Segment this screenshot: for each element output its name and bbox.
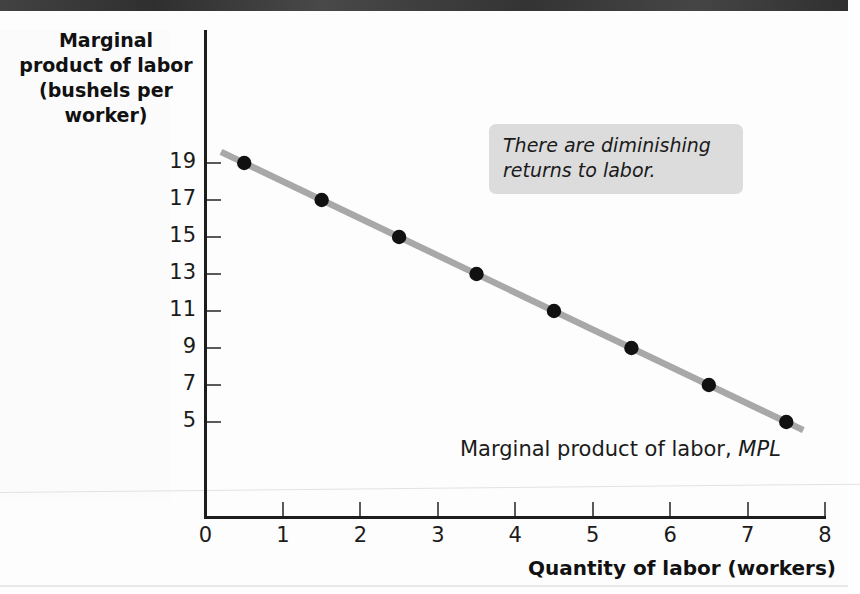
data-point-5.5-9 [624,341,638,355]
x-tick-6 [669,502,671,516]
y-axis-title-line-4: worker) [18,103,194,128]
y-axis-title: Marginal product of labor (bushels per w… [18,28,194,128]
data-point-7.5-5 [779,415,793,429]
x-axis-line [204,516,826,519]
y-tick-11 [207,310,221,312]
x-tick-label-7: 7 [728,523,768,547]
page-top-dark-band [0,0,848,11]
y-tick-label-11: 11 [136,297,196,321]
y-tick-label-13: 13 [136,260,196,284]
x-tick-7 [747,502,749,516]
y-axis-title-line-3: (bushels per [18,78,194,103]
series-label-text: Marginal product of labor, [460,437,738,461]
y-tick-9 [207,347,221,349]
x-tick-label-1: 1 [263,523,303,547]
annotation-line-1: There are diminishing [503,133,729,158]
page-top-dark-band-texture [0,0,848,11]
x-tick-4 [514,502,516,516]
data-point-2.5-15 [392,230,406,244]
x-tick-label-8: 8 [805,523,845,547]
y-tick-label-19: 19 [136,149,196,173]
data-point-1.5-17 [314,193,328,207]
y-tick-label-15: 15 [136,223,196,247]
series-label-symbol: MPL [738,437,780,461]
y-tick-label-17: 17 [136,186,196,210]
page-bottom-edge [0,585,848,587]
y-tick-label-5: 5 [136,408,196,432]
x-axis-title: Quantity of labor (workers) [466,556,836,580]
y-axis-title-line-2: product of labor [18,53,194,78]
x-tick-label-5: 5 [573,523,613,547]
series-label: Marginal product of labor, MPL [460,437,781,461]
x-tick-label-0: 0 [186,523,226,547]
annotation-line-2: returns to labor. [503,158,729,183]
y-tick-5 [207,421,221,423]
y-tick-label-7: 7 [136,371,196,395]
y-tick-19 [207,162,221,164]
annotation-callout: There are diminishing returns to labor. [489,124,743,194]
x-tick-1 [282,502,284,516]
y-tick-17 [207,199,221,201]
x-tick-5 [592,502,594,516]
data-point-0.5-19 [237,156,251,170]
x-tick-3 [437,502,439,516]
y-tick-15 [207,236,221,238]
x-tick-label-2: 2 [340,523,380,547]
x-tick-2 [359,502,361,516]
y-tick-label-9: 9 [136,334,196,358]
y-tick-13 [207,273,221,275]
data-point-6.5-7 [702,378,716,392]
data-point-4.5-11 [547,304,561,318]
y-tick-7 [207,384,221,386]
data-point-3.5-13 [469,267,483,281]
y-axis-title-line-1: Marginal [18,28,194,53]
x-tick-label-3: 3 [418,523,458,547]
x-tick-label-4: 4 [495,523,535,547]
x-tick-8 [824,502,826,516]
x-tick-label-6: 6 [650,523,690,547]
